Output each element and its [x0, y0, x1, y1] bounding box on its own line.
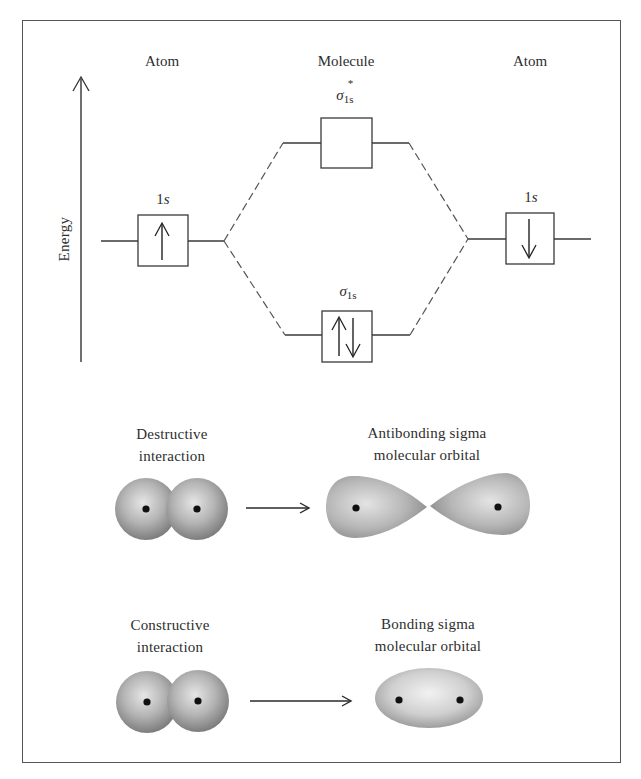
nucleus-dot: [193, 505, 200, 512]
orbital-box-antibonding: [321, 118, 372, 168]
diagram-canvas: [0, 0, 641, 779]
antibonding-sigma-label: σ*1s: [336, 88, 359, 103]
left-atomic-level: [101, 215, 224, 266]
bonding-orbital-label: Bonding sigma molecular orbital: [375, 613, 481, 657]
energy-axis: [73, 77, 89, 362]
nucleus-dot: [352, 504, 359, 511]
bonding-level: [285, 311, 410, 362]
nucleus-dot: [194, 697, 201, 704]
column-label-molecule: Molecule: [318, 54, 375, 69]
nucleus-dot: [142, 505, 149, 512]
energy-axis-label: Energy: [56, 217, 73, 262]
antibonding-orbital-label: Antibonding sigma molecular orbital: [368, 422, 487, 466]
nucleus-dot: [395, 696, 402, 703]
bonding-orbital-shape: [375, 668, 483, 728]
constructive-interaction-label: Constructive interaction: [130, 614, 209, 658]
correlation-lines: [224, 143, 468, 335]
column-label-left-atom: Atom: [145, 54, 179, 69]
right-atomic-level: [468, 213, 591, 264]
destructive-spheres: [115, 478, 228, 540]
antibonding-level: [283, 118, 409, 168]
nucleus-dot: [456, 696, 463, 703]
orbital-box-bonding: [322, 311, 372, 362]
column-label-right-atom: Atom: [513, 54, 547, 69]
constructive-spheres: [116, 670, 229, 733]
right-1s-label: 1s: [524, 190, 537, 205]
left-1s-label: 1s: [156, 192, 169, 207]
nucleus-dot: [143, 698, 150, 705]
nucleus-dot: [494, 503, 501, 510]
bonding-sigma-label: σ1s: [339, 284, 356, 301]
antibonding-orbital-shape: [326, 473, 530, 538]
destructive-interaction-label: Destructive interaction: [136, 423, 207, 467]
orbital-box-left: [138, 215, 188, 266]
